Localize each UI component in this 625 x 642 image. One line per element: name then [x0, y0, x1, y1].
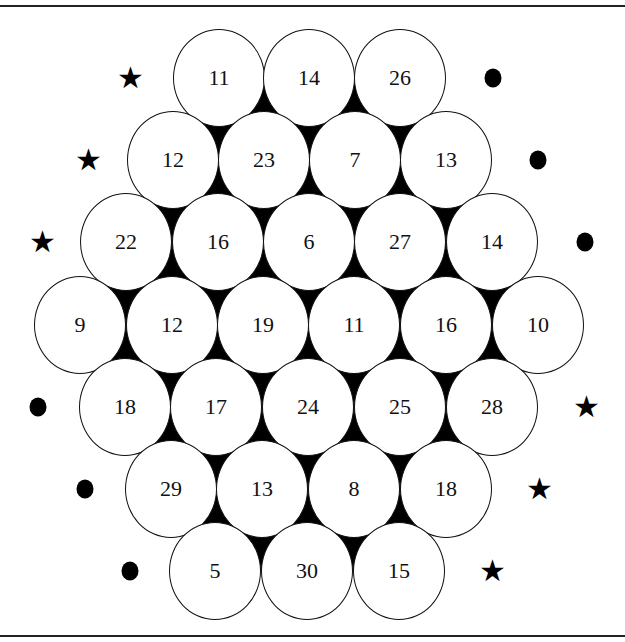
star-icon: ★ — [29, 227, 56, 257]
number-cell[interactable]: 18 — [400, 440, 492, 538]
number-cell[interactable]: 30 — [261, 522, 353, 620]
dot-icon — [30, 398, 47, 417]
dot-icon — [485, 69, 502, 88]
number-cell[interactable]: 15 — [353, 522, 445, 620]
star-icon: ★ — [479, 556, 506, 586]
dot-icon — [577, 233, 594, 252]
star-icon: ★ — [526, 474, 553, 504]
number-cell[interactable]: 27 — [354, 193, 446, 291]
number-cell[interactable]: 14 — [446, 193, 538, 291]
honeycomb-puzzle-board: 111426★1223713★221662714★912191116101817… — [0, 0, 625, 642]
dot-icon — [122, 562, 139, 581]
star-icon: ★ — [117, 63, 144, 93]
number-cell[interactable]: 6 — [263, 193, 355, 291]
star-icon: ★ — [573, 392, 600, 422]
number-cell[interactable]: 5 — [169, 522, 261, 620]
number-cell[interactable]: 16 — [172, 193, 264, 291]
star-icon: ★ — [75, 145, 102, 175]
dot-icon — [530, 151, 547, 170]
number-cell[interactable]: 22 — [80, 193, 172, 291]
dot-icon — [77, 480, 94, 499]
